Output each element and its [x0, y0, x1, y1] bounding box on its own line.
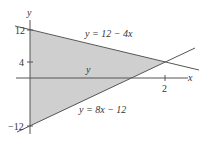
x-axis-label: x [187, 72, 193, 83]
y-tick-label-4: 4 [19, 57, 24, 68]
y-axis-label: y [26, 7, 32, 18]
graph: y x 12 4 −12 2 y = 12 − 4x y = 8x − 12 y [0, 0, 199, 141]
y-tick-label-neg12: −12 [8, 121, 24, 132]
region-label: y [85, 64, 91, 75]
lower-line-label: y = 8x − 12 [78, 104, 126, 115]
x-tick-label-2: 2 [162, 83, 167, 94]
y-tick-label-12: 12 [15, 25, 25, 36]
upper-line-label: y = 12 − 4x [84, 28, 133, 39]
